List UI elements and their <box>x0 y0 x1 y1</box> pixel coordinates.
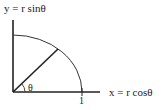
unit-arc <box>13 35 82 92</box>
x-axis-label: x = r cosθ <box>109 86 153 98</box>
radius-line <box>13 49 58 92</box>
y-axis-label: y = r sinθ <box>4 2 46 14</box>
angle-label: θ <box>28 82 33 94</box>
angle-arc <box>22 84 25 92</box>
unit-tick-label: 1 <box>79 95 84 107</box>
